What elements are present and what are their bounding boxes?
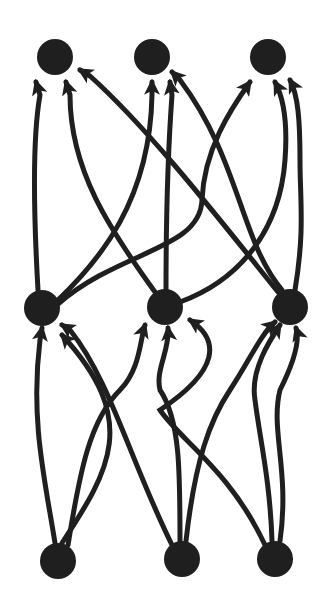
edge-M1-to-T1: [35, 82, 41, 290]
edge-B3-to-M3: [277, 328, 297, 541]
nodes-group: [24, 39, 308, 579]
edge-B1-to-M1: [37, 328, 55, 543]
node-bottom-B2: [164, 541, 200, 577]
node-middle-M3: [272, 289, 308, 325]
edge-M2-to-T1: [66, 82, 155, 292]
edge-B2-to-M2: [159, 328, 180, 541]
edge-M3-to-T3: [290, 80, 301, 290]
node-middle-M2: [147, 289, 183, 325]
node-bottom-B3: [257, 541, 293, 577]
edge-M2-to-T2: [166, 82, 172, 290]
node-top-T1: [37, 39, 73, 75]
node-bottom-B1: [40, 543, 76, 579]
layered-directed-graph: [0, 0, 335, 604]
graph-svg: [0, 0, 335, 604]
edge-B1-to-M1: [62, 335, 110, 543]
node-top-T3: [250, 39, 286, 75]
node-top-T2: [134, 39, 170, 75]
node-middle-M1: [24, 290, 60, 326]
